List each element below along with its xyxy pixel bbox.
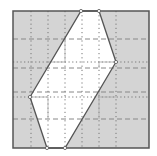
vertex-marker	[45, 146, 48, 149]
hexagon-grid-diagram	[0, 0, 157, 156]
diagram-canvas	[0, 0, 157, 156]
vertex-marker	[114, 60, 117, 63]
vertex-marker	[97, 9, 100, 12]
vertex-marker	[63, 146, 66, 149]
vertex-marker	[79, 9, 82, 12]
vertex-marker	[28, 95, 31, 98]
